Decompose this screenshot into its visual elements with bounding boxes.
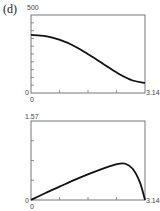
top-chart xyxy=(31,15,145,93)
bottom-chart xyxy=(31,121,145,200)
chart-canvas xyxy=(0,0,160,211)
bottom-curve xyxy=(31,163,145,200)
top-curve xyxy=(31,35,145,83)
